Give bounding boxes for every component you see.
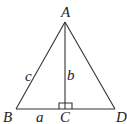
side-ab — [16, 22, 65, 109]
triangle-diagram: A B C D c b a — [0, 0, 127, 124]
vertex-label-a: A — [60, 4, 71, 20]
vertex-label-c: C — [60, 109, 71, 124]
side-label-a: a — [36, 109, 44, 124]
side-label-c: c — [25, 68, 32, 84]
side-label-b: b — [67, 67, 75, 83]
side-ad — [65, 22, 115, 109]
vertex-label-b: B — [3, 109, 12, 124]
vertex-label-d: D — [115, 109, 127, 124]
